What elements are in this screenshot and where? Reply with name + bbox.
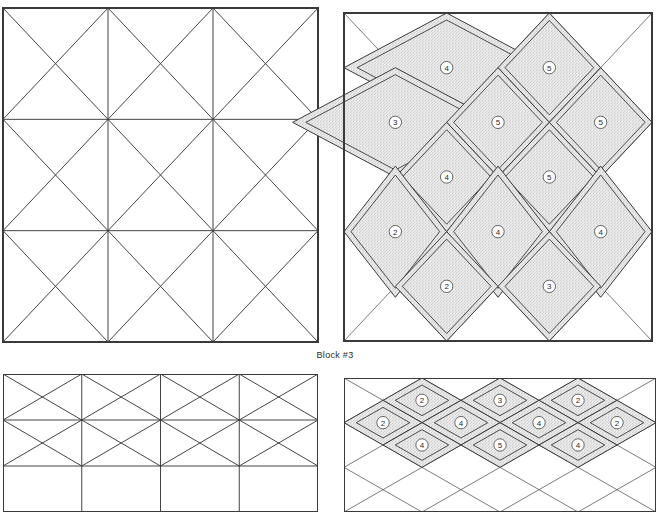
svg-text:2: 2	[615, 419, 620, 428]
svg-text:2: 2	[381, 419, 386, 428]
caption-block-3: Block #3	[290, 350, 380, 360]
svg-text:2: 2	[576, 396, 581, 405]
figure-page: 453554524423 Block #3 2322442454	[0, 0, 659, 512]
svg-text:3: 3	[498, 396, 503, 405]
svg-text:4: 4	[598, 228, 603, 237]
svg-text:2: 2	[420, 396, 425, 405]
svg-text:5: 5	[547, 64, 552, 73]
block3-motif-diagram-panel: 453554524423	[344, 13, 652, 341]
block4-motif-diagram-panel: 2322442454	[344, 378, 656, 512]
block4-piecing-grid-panel	[3, 374, 318, 512]
svg-text:3: 3	[393, 118, 398, 127]
block3-piecing-grid-panel	[3, 8, 318, 342]
svg-text:5: 5	[598, 118, 603, 127]
svg-text:4: 4	[420, 441, 425, 450]
svg-text:4: 4	[576, 441, 581, 450]
svg-text:4: 4	[444, 64, 449, 73]
svg-text:5: 5	[547, 173, 552, 182]
svg-text:2: 2	[444, 282, 449, 291]
svg-text:5: 5	[496, 118, 501, 127]
svg-text:4: 4	[537, 419, 542, 428]
svg-text:5: 5	[498, 441, 503, 450]
svg-text:3: 3	[547, 282, 552, 291]
svg-text:2: 2	[393, 228, 398, 237]
svg-text:4: 4	[444, 173, 449, 182]
svg-text:4: 4	[496, 228, 501, 237]
svg-text:4: 4	[459, 419, 464, 428]
